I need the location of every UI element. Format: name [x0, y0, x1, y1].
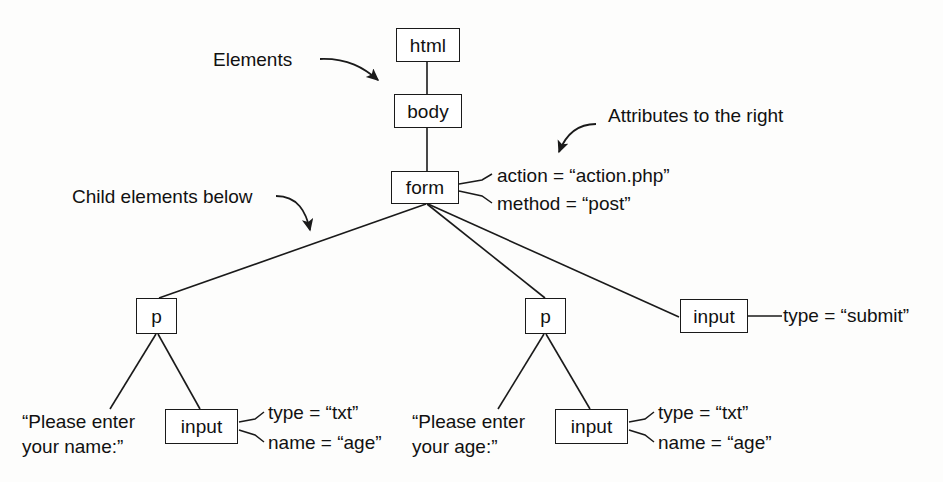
annotation-elements: Elements — [213, 48, 292, 71]
leader-input-age-name — [629, 430, 654, 442]
text-node-age-prompt-line1: “Please enter — [412, 410, 525, 433]
leader-form-action — [459, 174, 492, 184]
node-input-name-label: input — [181, 417, 223, 436]
attribute-input-submit-type: type = “submit” — [783, 304, 909, 327]
edge-form-p-name — [159, 204, 426, 298]
annotation-arrow-elements — [320, 59, 378, 80]
node-body-label: body — [407, 102, 449, 121]
annotation-child-elements-below: Child elements below — [72, 185, 253, 208]
leader-input-age-type — [629, 412, 654, 422]
leader-input-name-name — [239, 430, 264, 442]
leader-input-name-type — [239, 412, 264, 422]
attribute-input-name-type: type = “txt” — [268, 401, 358, 424]
node-p-name[interactable]: p — [136, 298, 177, 334]
text-node-age-prompt-line2: your age:” — [412, 435, 498, 458]
edge-p-age-input — [546, 334, 590, 409]
node-input-age[interactable]: input — [555, 409, 628, 444]
node-html-label: html — [410, 36, 446, 55]
attribute-input-name-name: name = “age” — [268, 431, 382, 454]
annotation-attributes-right: Attributes to the right — [608, 104, 783, 127]
attribute-input-age-type: type = “txt” — [658, 401, 748, 424]
text-node-name-prompt-line2: your name:” — [22, 435, 123, 458]
node-input-name[interactable]: input — [165, 409, 238, 444]
node-p-name-label: p — [151, 307, 162, 326]
node-p-age-label: p — [540, 307, 551, 326]
attribute-input-age-name: name = “age” — [658, 431, 772, 454]
node-form-label: form — [406, 178, 444, 197]
attribute-form-method: method = “post” — [497, 192, 631, 215]
node-input-submit[interactable]: input — [680, 299, 748, 333]
node-form[interactable]: form — [391, 171, 459, 204]
annotation-arrow-attributes — [559, 124, 596, 152]
diagram-canvas: html body form p p input input input act… — [0, 0, 943, 482]
node-input-age-label: input — [571, 417, 613, 436]
node-body[interactable]: body — [394, 94, 462, 128]
edge-p-age-text — [498, 334, 544, 409]
node-html[interactable]: html — [396, 28, 460, 62]
annotation-arrow-child-elements — [276, 196, 310, 230]
edge-p-name-text — [110, 334, 156, 409]
text-node-name-prompt-line1: “Please enter — [22, 410, 135, 433]
attribute-form-action: action = “action.php” — [497, 164, 670, 187]
edge-p-name-input — [158, 334, 200, 409]
leader-form-method — [459, 191, 492, 203]
edge-form-p-age — [427, 204, 545, 298]
node-input-submit-label: input — [693, 307, 735, 326]
node-p-age[interactable]: p — [525, 298, 566, 334]
